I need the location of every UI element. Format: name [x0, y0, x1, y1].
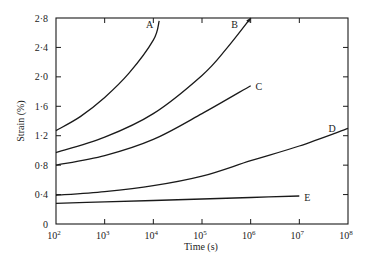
y-tick-label: 1·2	[35, 130, 48, 141]
y-tick-label: 2·4	[35, 42, 48, 53]
y-tick-label: 0	[43, 219, 48, 230]
y-tick-label: 2·0	[35, 71, 48, 82]
x-tick-label: 106	[242, 229, 256, 241]
y-tick-label: 1·6	[35, 101, 48, 112]
curve-a	[56, 21, 159, 131]
curve-c	[56, 86, 251, 165]
creep-strain-chart: 102103104105106107108 00·40·81·21·62·02·…	[0, 0, 373, 270]
y-tick-label: 2·8	[35, 13, 48, 24]
curve-label-e: E	[304, 192, 310, 203]
x-tick-label: 107	[291, 229, 305, 241]
x-axis: 102103104105106107108	[47, 18, 353, 241]
x-tick-label: 104	[145, 229, 159, 241]
curve-label-c: C	[256, 81, 263, 92]
curve-b	[56, 18, 251, 153]
y-tick-label: 0·4	[35, 189, 48, 200]
curve-label-d: D	[329, 123, 336, 134]
curve-label-b: B	[231, 19, 238, 30]
x-tick-label: 103	[96, 229, 110, 241]
x-tick-label: 108	[339, 229, 353, 241]
y-axis-title: Strain (%)	[15, 100, 27, 141]
x-axis-title: Time (s)	[184, 241, 218, 253]
x-tick-label: 102	[47, 229, 61, 241]
y-axis: 00·40·81·21·62·02·42·8	[35, 13, 348, 230]
y-tick-label: 0·8	[35, 160, 48, 171]
curve-e	[56, 196, 299, 203]
x-tick-label: 105	[193, 229, 207, 241]
curve-label-a: A	[146, 19, 154, 30]
curves: ABCDE	[56, 18, 348, 203]
